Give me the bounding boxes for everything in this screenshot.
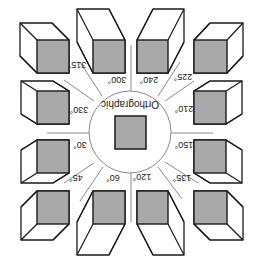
angle-label: 240° [139,75,158,85]
cube-view-120deg [137,191,184,255]
cube-view-60deg [77,191,125,255]
angle-label: 330° [69,105,88,115]
angle-label: 45° [69,173,83,183]
angle-label: 300° [107,75,126,85]
orthographic-title: Orthographic [101,99,159,110]
cube-view-210deg [194,81,242,124]
angle-label: 315° [67,60,86,70]
spoke-line [165,81,194,101]
angle-label: 150° [174,140,193,150]
center-orthographic-square [115,116,146,149]
cube-view-330deg [21,81,69,124]
diagram-canvas: Orthographic 315°300°240°225°210°150°135… [0,0,259,279]
cube-view-150deg [194,140,242,183]
angle-label: 225° [173,72,192,82]
orthographic-view-diagram: Orthographic 315°300°240°225°210°150°135… [0,0,259,279]
cube-view-30deg [21,140,69,183]
angle-label: 135° [172,173,191,183]
cube-view-225deg [194,23,243,73]
cube-view-240deg [137,9,184,73]
cube-view-135deg [194,191,243,240]
cube-view-45deg [21,191,69,240]
angle-label: 120° [132,172,151,182]
angle-label: 210° [174,104,193,114]
cube-view-315deg [20,23,69,73]
angle-label: 30° [73,140,87,150]
angle-label: 60° [106,173,120,183]
